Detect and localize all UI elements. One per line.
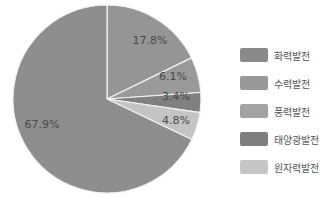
legend-item: 화력발전 bbox=[240, 47, 319, 63]
legend-swatch bbox=[240, 76, 268, 90]
legend-item: 수력발전 bbox=[240, 75, 319, 91]
slice-label: 67.9% bbox=[25, 118, 60, 131]
legend-item: 원자력발전 bbox=[240, 159, 319, 175]
legend-label: 화력발전 bbox=[274, 48, 310, 63]
legend-item: 풍력발전 bbox=[240, 103, 319, 119]
legend-label: 풍력발전 bbox=[274, 104, 310, 119]
legend-label: 수력발전 bbox=[274, 76, 310, 91]
legend-swatch bbox=[240, 104, 268, 118]
pie-chart: 17.8%6.1%3.4%4.8%67.9% bbox=[0, 0, 220, 197]
legend: 화력발전 수력발전 풍력발전 태양광발전 원자력발전 bbox=[240, 47, 319, 187]
slice-label: 4.8% bbox=[162, 114, 190, 127]
legend-swatch bbox=[240, 160, 268, 174]
legend-swatch bbox=[240, 48, 268, 62]
slice-label: 6.1% bbox=[159, 70, 187, 83]
slice-label: 17.8% bbox=[133, 34, 168, 47]
legend-label: 태양광발전 bbox=[274, 132, 319, 147]
legend-item: 태양광발전 bbox=[240, 131, 319, 147]
legend-swatch bbox=[240, 132, 268, 146]
legend-label: 원자력발전 bbox=[274, 160, 319, 175]
slice-label: 3.4% bbox=[162, 90, 190, 103]
